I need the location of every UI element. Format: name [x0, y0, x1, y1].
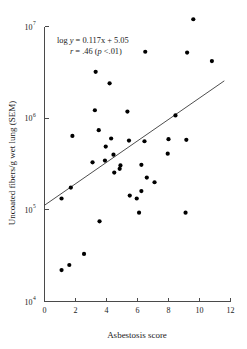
x-tick-label: 2 [74, 306, 78, 315]
y-tick-label: 10 [25, 298, 33, 307]
y-tick-label-exponent: 5 [33, 203, 36, 209]
data-point [127, 138, 131, 142]
axes [45, 27, 231, 302]
x-tick-label: 8 [167, 306, 171, 315]
data-point [152, 180, 156, 184]
data-point [59, 196, 63, 200]
y-tick-labels: 104105106107 [25, 20, 37, 307]
y-tick-label: 10 [25, 114, 33, 123]
data-point [112, 170, 116, 174]
data-point [108, 81, 112, 85]
data-point [103, 158, 107, 162]
data-point [166, 137, 170, 141]
data-point [94, 70, 98, 74]
data-point [90, 160, 94, 164]
data-point [210, 59, 214, 63]
x-tick-label: 12 [227, 306, 235, 315]
chart-canvas: 024681012 104105106107 log y = 0.117x + … [0, 0, 247, 349]
data-point [191, 17, 195, 21]
y-tick-label-exponent: 6 [33, 112, 36, 118]
data-point [59, 268, 63, 272]
data-point [93, 108, 97, 112]
data-point [183, 211, 187, 215]
data-point [97, 128, 101, 132]
data-point [137, 211, 141, 215]
annotation-regression-equation: log y = 0.117x + 5.05 [57, 36, 129, 45]
x-tick-label: 4 [105, 306, 109, 315]
x-tick-label: 0 [43, 306, 47, 315]
data-point [97, 219, 101, 223]
data-point [109, 136, 113, 140]
data-point [143, 50, 147, 54]
x-tick-label: 6 [136, 306, 140, 315]
data-point [145, 175, 149, 179]
x-tick-labels: 024681012 [43, 306, 235, 315]
data-point [142, 139, 146, 143]
data-point [166, 152, 170, 156]
y-tick-label-exponent: 7 [33, 20, 36, 26]
data-point [125, 109, 129, 113]
scatter-chart-figure: 024681012 104105106107 log y = 0.117x + … [0, 0, 247, 349]
x-axis-title: Asbestosis score [107, 330, 167, 340]
data-point [118, 163, 122, 167]
data-point [135, 196, 139, 200]
data-point [139, 189, 143, 193]
data-point [139, 163, 143, 167]
data-point [67, 263, 71, 267]
y-axis-title: Uncoated fibers/g wet lung (SEM) [7, 101, 17, 225]
data-point [185, 50, 189, 54]
y-tick-label: 10 [25, 23, 33, 32]
y-tick-label-exponent: 4 [33, 295, 36, 301]
data-point [69, 185, 73, 189]
data-point [111, 153, 115, 157]
data-point [82, 252, 86, 256]
data-point [128, 193, 132, 197]
data-point [184, 138, 188, 142]
x-tick-label: 10 [196, 306, 204, 315]
data-point [173, 113, 177, 117]
y-tick-label: 10 [25, 206, 33, 215]
data-point [104, 144, 108, 148]
data-point [70, 134, 74, 138]
annotation-correlation: r = .46 (p <.01) [70, 47, 122, 56]
